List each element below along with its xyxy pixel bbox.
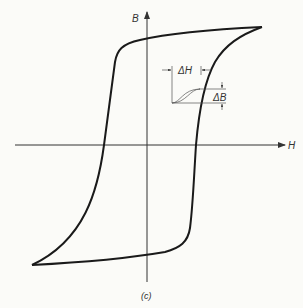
hysteresis-diagram: ΔH ΔB B H (c): [0, 0, 303, 308]
delta-b-label: ΔB: [212, 92, 227, 103]
y-axis-label: B: [132, 13, 139, 24]
delta-h-label: ΔH: [177, 65, 193, 76]
figure-caption: (c): [141, 291, 152, 301]
inset-minor-loop: [162, 66, 226, 110]
x-axis-label: H: [288, 140, 296, 151]
